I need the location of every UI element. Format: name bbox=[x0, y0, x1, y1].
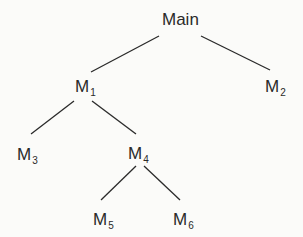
node-main: Main bbox=[162, 11, 199, 28]
tree-edges bbox=[0, 0, 303, 237]
node-m2: M2 bbox=[265, 78, 286, 95]
node-subscript: 1 bbox=[90, 87, 96, 98]
edge-m1-m3 bbox=[31, 101, 74, 134]
node-subscript: 4 bbox=[143, 154, 149, 165]
node-subscript: 5 bbox=[108, 220, 114, 231]
node-label: Main bbox=[162, 10, 199, 29]
node-subscript: 3 bbox=[32, 155, 38, 166]
node-label: M bbox=[75, 77, 89, 96]
node-m6: M6 bbox=[173, 211, 194, 228]
node-subscript: 2 bbox=[280, 87, 286, 98]
node-label: M bbox=[93, 210, 107, 229]
node-label: M bbox=[128, 144, 142, 163]
node-m5: M5 bbox=[93, 211, 114, 228]
edge-main-m1 bbox=[91, 36, 159, 72]
edge-m1-m4 bbox=[92, 101, 136, 134]
node-subscript: 6 bbox=[188, 220, 194, 231]
node-label: M bbox=[265, 77, 279, 96]
node-label: M bbox=[17, 145, 31, 164]
edge-main-m2 bbox=[201, 36, 270, 70]
edge-m4-m6 bbox=[144, 166, 180, 200]
node-m1: M1 bbox=[75, 78, 96, 95]
node-m3: M3 bbox=[17, 146, 38, 163]
node-label: M bbox=[173, 210, 187, 229]
edge-m4-m5 bbox=[101, 166, 136, 200]
node-m4: M4 bbox=[128, 145, 149, 162]
